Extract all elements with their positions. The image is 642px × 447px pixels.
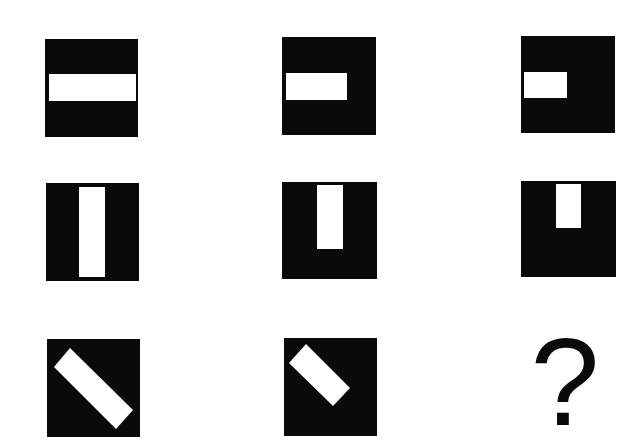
vertical-bar xyxy=(556,184,581,228)
diagonal-bar xyxy=(47,339,140,437)
horizontal-bar xyxy=(524,72,567,98)
vertical-bar xyxy=(317,185,343,249)
cell-r3-c2 xyxy=(284,338,377,436)
cell-r2-c3 xyxy=(521,181,616,277)
cell-r2-c1 xyxy=(46,183,139,281)
horizontal-bar xyxy=(286,73,347,100)
cell-r1-c2 xyxy=(282,37,376,135)
cell-r2-c2 xyxy=(282,182,377,279)
diagonal-bar xyxy=(284,338,377,436)
horizontal-bar xyxy=(49,74,136,101)
question-mark: ? xyxy=(527,322,603,442)
cell-r3-c1 xyxy=(47,339,140,437)
vertical-bar xyxy=(79,187,105,277)
cell-r1-c3 xyxy=(521,36,615,133)
cell-r1-c1 xyxy=(45,39,138,137)
